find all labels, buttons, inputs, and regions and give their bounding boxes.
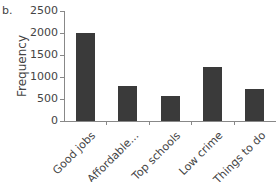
x-tick-mark: [191, 121, 192, 125]
panel-label: b.: [2, 4, 12, 17]
y-tick-label: 2500: [26, 4, 58, 17]
y-tick-label: 1000: [26, 70, 58, 83]
y-axis-label: Frequency: [15, 35, 29, 97]
bar: [118, 86, 137, 121]
x-tick-mark: [106, 121, 107, 125]
bar: [161, 96, 180, 121]
y-tick-label: 1500: [26, 48, 58, 61]
x-axis: [64, 121, 276, 122]
bar: [203, 67, 222, 121]
x-tick-mark: [149, 121, 150, 125]
y-tick-label: 2000: [26, 26, 58, 39]
y-tick-label: 0: [26, 114, 58, 127]
x-tick-mark: [234, 121, 235, 125]
y-tick-label: 500: [26, 92, 58, 105]
bar: [245, 89, 264, 121]
bar: [76, 33, 95, 121]
y-axis: [64, 11, 65, 122]
